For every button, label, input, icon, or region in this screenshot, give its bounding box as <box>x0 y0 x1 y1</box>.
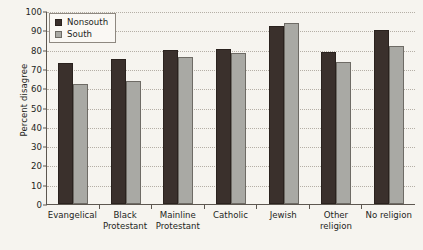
bar-group <box>257 12 310 204</box>
bar-nonsouth <box>374 30 389 204</box>
bar-south <box>336 62 351 204</box>
bar-south <box>126 81 141 204</box>
bar-nonsouth <box>269 26 284 204</box>
x-tick-mark <box>151 204 152 209</box>
x-tick-label: MainlineProtestant <box>151 210 204 232</box>
bar-south <box>73 84 88 204</box>
y-tick-label: 50 <box>31 104 42 114</box>
x-tick-label: BlackProtestant <box>99 210 152 232</box>
y-tick-label: 60 <box>31 84 42 94</box>
legend-swatch-icon-south <box>55 31 62 38</box>
x-tick-label: No religion <box>362 210 415 232</box>
bar-chart: Percent disagree 0102030405060708090100 … <box>0 0 423 250</box>
y-axis-title: Percent disagree <box>19 30 29 170</box>
bar-nonsouth <box>321 52 336 204</box>
bar-nonsouth <box>216 49 231 204</box>
legend-swatch-icon-nonsouth <box>55 19 62 26</box>
y-tick-label: 80 <box>31 46 42 56</box>
y-tick-label: 30 <box>31 142 42 152</box>
x-tick-label: Evangelical <box>46 210 99 232</box>
y-tick-label: 0 <box>37 200 42 210</box>
y-tick-mark <box>43 205 47 206</box>
x-tick-mark <box>99 204 100 209</box>
y-tick-label: 40 <box>31 123 42 133</box>
x-tick-mark <box>204 204 205 209</box>
x-tick-label: Otherreligion <box>310 210 363 232</box>
legend-label-nonsouth: Nonsouth <box>67 17 108 27</box>
bar-south <box>231 53 246 204</box>
y-tick-label: 90 <box>31 26 42 36</box>
legend-item-south: South <box>55 29 108 39</box>
y-tick-label: 10 <box>31 181 42 191</box>
bar-south <box>389 46 404 204</box>
bar-group <box>152 12 205 204</box>
bar-group <box>310 12 363 204</box>
bar-group <box>362 12 415 204</box>
y-tick-label: 70 <box>31 65 42 75</box>
legend-label-south: South <box>67 29 92 39</box>
legend-item-nonsouth: Nonsouth <box>55 17 108 27</box>
x-tick-label: Jewish <box>257 210 310 232</box>
legend: Nonsouth South <box>49 13 116 43</box>
y-tick-label: 100 <box>26 7 42 17</box>
bar-nonsouth <box>58 63 73 204</box>
x-tick-label: Catholic <box>204 210 257 232</box>
x-axis-labels: EvangelicalBlackProtestantMainlineProtes… <box>46 210 415 232</box>
x-tick-mark <box>256 204 257 209</box>
bar-nonsouth <box>111 59 126 204</box>
bar-group <box>205 12 258 204</box>
bar-south <box>284 23 299 204</box>
y-tick-label: 20 <box>31 161 42 171</box>
x-tick-mark <box>361 204 362 209</box>
x-tick-mark <box>309 204 310 209</box>
bar-south <box>178 57 193 204</box>
bar-nonsouth <box>163 50 178 204</box>
